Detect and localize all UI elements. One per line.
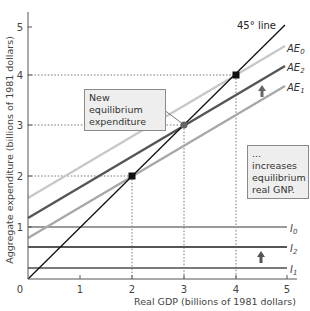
callout-text: real GNP. [252,184,304,196]
svg-text:1: 1 [77,284,83,295]
label-ae2: AE2 [286,62,305,75]
y-tick-labels: 1 2 3 4 5 [17,22,23,233]
svg-text:3: 3 [17,120,23,131]
up-arrow-icon [258,85,266,97]
callout-text: New equilibrium [89,92,161,116]
x-axis-title: Real GDP (billions of 1981 dollars) [134,296,296,307]
label-ae0: AE0 [286,43,305,56]
svg-text:2: 2 [129,284,135,295]
svg-text:5: 5 [284,284,290,295]
svg-text:0: 0 [17,284,23,295]
callout-text: expenditure [89,116,161,128]
equilibrium-point-2 [129,173,136,180]
equilibrium-point-4 [233,72,240,79]
equilibrium-point-3 [181,122,188,129]
up-arrow-icon [257,251,265,263]
label-i0: I0 [290,223,298,236]
svg-text:1: 1 [17,222,23,233]
label-45-line: 45° line [237,20,276,31]
svg-text:4: 4 [17,70,23,81]
new-equilibrium-callout: New equilibrium expenditure [84,89,166,131]
svg-text:2: 2 [17,171,23,182]
callout-text: equilibrium [252,172,304,184]
svg-text:5: 5 [17,22,23,33]
increase-gnp-callout: ... increases equilibrium real GNP. [247,145,309,199]
y-axis-title: Aggregate expenditure (billions of 1981 … [4,36,15,264]
label-i1: I1 [290,264,297,277]
label-ae1: AE1 [286,82,305,95]
x-tick-labels: 0 1 2 3 4 5 [17,284,290,295]
callout-text: ... increases [252,148,304,172]
svg-text:3: 3 [181,284,187,295]
label-i2: I2 [290,243,298,256]
svg-text:4: 4 [233,284,239,295]
